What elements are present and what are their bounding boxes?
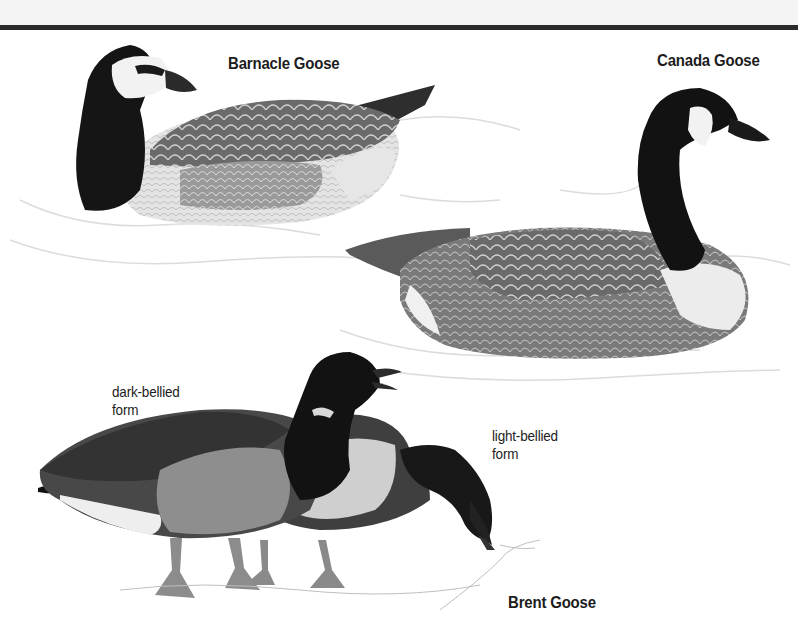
canada-goose <box>345 88 770 359</box>
light-bellied-line1: light-bellied <box>492 427 558 445</box>
dark-bellied-line2: form <box>112 401 180 419</box>
top-band <box>0 0 798 25</box>
canada-goose-label: Canada Goose <box>657 51 760 71</box>
dark-bellied-form-label: dark-bellied form <box>112 383 180 419</box>
light-bellied-form-label: light-bellied form <box>492 427 558 463</box>
dark-bellied-line1: dark-bellied <box>112 383 180 401</box>
light-bellied-line2: form <box>492 445 558 463</box>
brent-goose-label: Brent Goose <box>508 593 596 613</box>
goose-illustration: Barnacle Goose Canada Goose Brent Goose … <box>0 30 798 628</box>
barnacle-goose-label: Barnacle Goose <box>228 54 339 74</box>
